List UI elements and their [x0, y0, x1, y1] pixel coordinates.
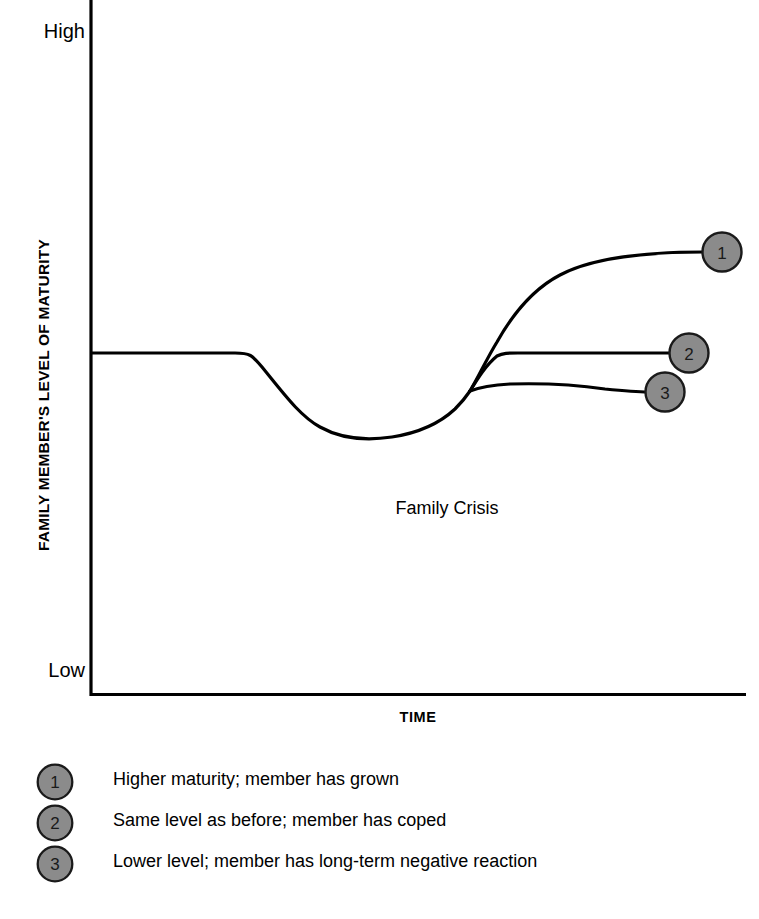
curve-outcome-3: [470, 384, 648, 392]
legend-badge-1-icon: 1: [36, 763, 74, 801]
endpoint-badge-1: 1: [703, 233, 742, 272]
legend-item-3-label: Lower level; member has long-term negati…: [113, 851, 537, 872]
endpoint-badge-1-number: 1: [717, 244, 726, 263]
legend-item-2-label: Same level as before; member has coped: [113, 810, 446, 831]
legend-badge-3-number: 3: [50, 855, 59, 874]
chart-legend: 1 Higher maturity; member has grown 2 Sa…: [0, 758, 759, 881]
y-axis-tick-low: Low: [0, 659, 85, 682]
legend-badge-1-number: 1: [50, 773, 59, 792]
legend-badge-3-icon: 3: [36, 845, 74, 883]
endpoint-badge-2: 2: [670, 334, 709, 373]
family-crisis-annotation: Family Crisis: [297, 498, 597, 519]
legend-item-1-label: Higher maturity; member has grown: [113, 769, 399, 790]
legend-badge-2-icon: 2: [36, 804, 74, 842]
legend-item-3: 3 Lower level; member has long-term nega…: [0, 840, 759, 881]
y-axis-label: FAMILY MEMBER'S LEVEL OF MATURITY: [35, 185, 53, 605]
x-axis-label: TIME: [0, 709, 759, 725]
endpoint-badge-3-number: 3: [660, 384, 669, 403]
curve-outcome-1: [470, 252, 703, 391]
legend-item-2: 2 Same level as before; member has coped: [0, 799, 759, 840]
endpoint-badge-3: 3: [646, 373, 685, 412]
baseline-and-crisis-dip-curve: [92, 353, 470, 439]
legend-badge-2-number: 2: [50, 814, 59, 833]
legend-item-1: 1 Higher maturity; member has grown: [0, 758, 759, 799]
y-axis-tick-high: High: [0, 20, 85, 43]
endpoint-badge-2-number: 2: [684, 345, 693, 364]
maturity-crisis-chart: 1 2 3 High Low FAMILY MEMBER'S LEVEL OF …: [0, 0, 759, 919]
